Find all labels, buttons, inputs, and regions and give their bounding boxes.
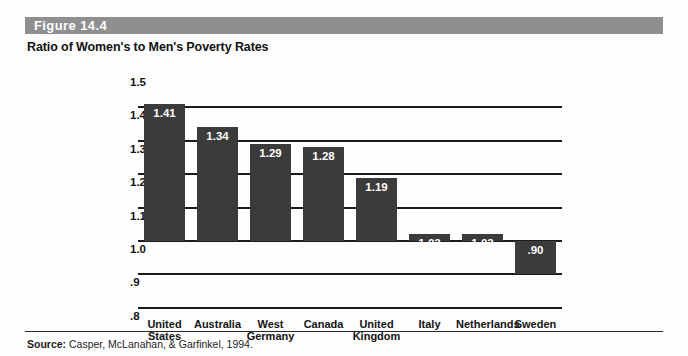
source-divider — [25, 331, 663, 332]
bar[interactable]: 1.02 — [462, 234, 503, 241]
x-axis-label-line: Canada — [297, 318, 350, 331]
bar-value-label: 1.19 — [356, 181, 397, 194]
figure-root: Figure 14.4 Ratio of Women's to Men's Po… — [0, 0, 688, 356]
bar-slot: 1.41 — [138, 62, 191, 312]
source-citation: Casper, McLanahan, & Garfinkel, 1994. — [66, 338, 253, 350]
x-axis-label-line: Kingdom — [350, 330, 403, 343]
bar-value-label: 1.34 — [197, 130, 238, 143]
source-note: Source: Casper, McLanahan, & Garfinkel, … — [27, 338, 253, 350]
x-axis-label-line: Sweden — [509, 318, 562, 331]
bar-value-label: 1.29 — [250, 147, 291, 160]
bar-slot: 1.19 — [350, 62, 403, 312]
figure-number-label: Figure 14.4 — [34, 18, 107, 33]
x-axis-label-line: Italy — [403, 318, 456, 331]
bar[interactable]: 1.34 — [197, 127, 238, 241]
bar-slot: .90 — [509, 62, 562, 312]
figure-title: Ratio of Women's to Men's Poverty Rates — [27, 40, 268, 54]
x-axis-category-label: Canada — [297, 318, 350, 331]
bar-value-label: 1.02 — [462, 237, 503, 250]
bar[interactable]: 1.19 — [356, 178, 397, 241]
source-label: Source: — [27, 338, 66, 350]
x-axis-label-line: West — [244, 318, 297, 331]
bar-value-label: 1.41 — [144, 107, 185, 120]
bar[interactable]: 1.28 — [303, 147, 344, 241]
x-axis-label-line: United — [138, 318, 191, 331]
bar[interactable]: 1.41 — [144, 104, 185, 241]
bar-slot: 1.02 — [403, 62, 456, 312]
bar-value-label: 1.28 — [303, 150, 344, 163]
x-axis-label-line: United — [350, 318, 403, 331]
bar-value-label: 1.02 — [409, 237, 450, 250]
bar-slot: 1.29 — [244, 62, 297, 312]
bar-value-label: .90 — [515, 244, 556, 257]
bar-slot: 1.28 — [297, 62, 350, 312]
plot-region: 1.411.341.291.281.191.021.02.90 — [138, 62, 562, 312]
bar[interactable]: .90 — [515, 241, 556, 274]
x-axis-label-line: Netherlands — [456, 318, 509, 331]
bar-slot: 1.02 — [456, 62, 509, 312]
bar-chart: 1.51.41.31.21.11.0.9.8 1.411.341.291.281… — [130, 62, 570, 312]
bar-slot: 1.34 — [191, 62, 244, 312]
x-axis-category-label: Netherlands — [456, 318, 509, 331]
x-axis-category-label: Italy — [403, 318, 456, 331]
x-axis-category-label: Sweden — [509, 318, 562, 331]
x-axis-label-line: Australia — [191, 318, 244, 331]
bar[interactable]: 1.29 — [250, 144, 291, 241]
x-axis-category-label: Australia — [191, 318, 244, 331]
bar[interactable]: 1.02 — [409, 234, 450, 241]
figure-number-band: Figure 14.4 — [25, 17, 663, 34]
